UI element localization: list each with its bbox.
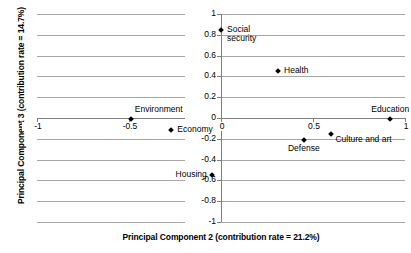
- y-axis-tick: [217, 76, 221, 77]
- data-point-marker[interactable]: [275, 68, 281, 74]
- y-axis-tick: [217, 139, 221, 140]
- y-axis-tick: [217, 56, 221, 57]
- data-point-marker[interactable]: [301, 137, 307, 143]
- y-axis-tick: [217, 35, 221, 36]
- data-point-label: Education: [37, 105, 411, 115]
- data-point-label: Culture and art: [335, 135, 391, 145]
- data-point-marker[interactable]: [329, 131, 335, 137]
- x-axis-title: Principal Component 2 (contribution rate…: [37, 232, 405, 242]
- y-axis-tick: [217, 97, 221, 98]
- data-point-label: Housing: [37, 170, 207, 180]
- x-axis-tick-label: 1: [390, 122, 411, 131]
- scatter-plot-figure: Principal Component 3 (contribution rate…: [0, 0, 411, 253]
- y-axis-tick: [217, 222, 221, 223]
- y-axis-tick-label: 1: [185, 9, 217, 18]
- gridline-horizontal: [37, 222, 405, 223]
- data-point-label: Social security: [227, 25, 256, 44]
- x-axis-tick-label: 0.5: [298, 122, 330, 131]
- y-axis-tick-label: 0.4: [185, 71, 217, 80]
- y-axis-tick-label: -0.2: [185, 134, 217, 143]
- y-axis-tick-label: 0.6: [185, 51, 217, 60]
- x-axis-tick-label: -1: [22, 122, 54, 131]
- data-point-label: Economy: [177, 125, 212, 135]
- data-point-label: Defense: [37, 144, 411, 154]
- y-axis-tick: [217, 201, 221, 202]
- y-axis-tick: [217, 180, 221, 181]
- y-axis-tick: [217, 160, 221, 161]
- x-axis-tick-label: -0.5: [114, 122, 146, 131]
- data-point-marker[interactable]: [168, 128, 174, 134]
- plot-area: 10.80.60.40.20-0.2-0.4-0.6-0.8-1-1-0.500…: [37, 14, 405, 222]
- y-axis-tick-label: 0.8: [185, 30, 217, 39]
- y-axis-title: Principal Component 3 (contribution rate…: [14, 0, 28, 232]
- y-axis-tick-label: -0.4: [185, 155, 217, 164]
- y-axis-tick-label: -0.8: [185, 196, 217, 205]
- data-point-marker[interactable]: [218, 27, 224, 33]
- y-axis-tick-label: -1: [185, 217, 217, 226]
- y-axis-tick: [217, 14, 221, 15]
- data-point-label: Health: [284, 66, 309, 76]
- y-axis-tick-label: 0.2: [185, 92, 217, 101]
